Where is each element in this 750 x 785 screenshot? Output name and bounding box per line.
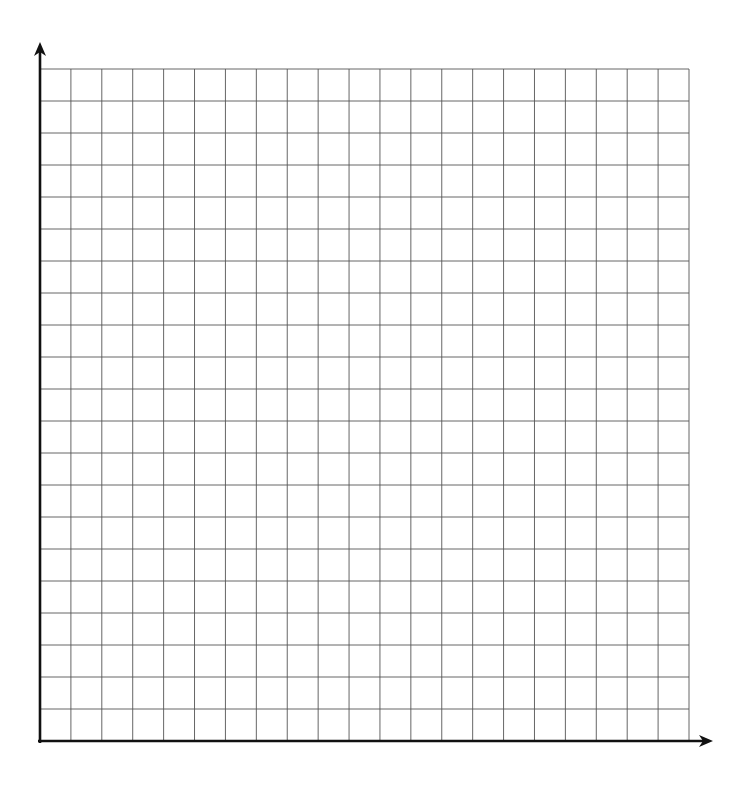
coordinate-grid-diagram [0,0,750,785]
grid-lines [40,69,689,741]
